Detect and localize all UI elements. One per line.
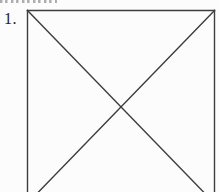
- diagonal-topleft-bottomright-line: [28, 11, 204, 193]
- scanned-exercise-page: 1.: [0, 0, 220, 192]
- diagonal-topright-bottomleft-line: [39, 11, 215, 193]
- square-with-diagonals-figure: [0, 0, 220, 192]
